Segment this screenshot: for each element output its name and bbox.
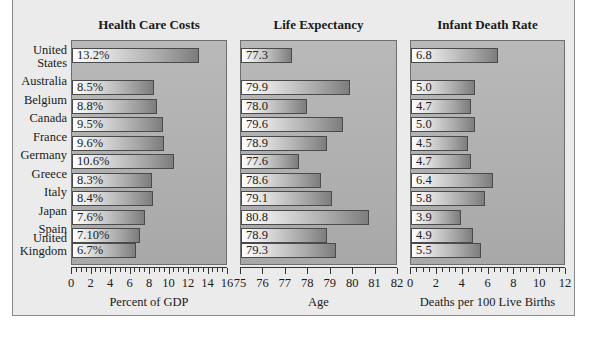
- tick-mark: [159, 268, 160, 272]
- bar[interactable]: 8.8%: [72, 99, 157, 114]
- bar[interactable]: 8.3%: [72, 173, 152, 188]
- bar[interactable]: 6.4: [411, 173, 493, 188]
- bar[interactable]: 79.6: [241, 117, 343, 132]
- category-label-line1: Canada: [30, 112, 67, 125]
- tick-mark: [507, 268, 508, 272]
- bar[interactable]: 9.6%: [72, 136, 164, 151]
- bar[interactable]: 6.7%: [72, 243, 136, 258]
- category-label-line1: Australia: [21, 75, 67, 88]
- bar-value-label: 79.3: [246, 244, 268, 257]
- category-label-line1: Italy: [44, 186, 67, 199]
- tick-mark: [475, 268, 476, 272]
- tick-label: 10: [533, 276, 546, 291]
- infant-death-rate-axis-title: Deaths per 100 Live Births: [420, 295, 555, 310]
- bar[interactable]: 77.3: [241, 48, 292, 63]
- bar[interactable]: 8.4%: [72, 191, 153, 206]
- health-care-costs-axis-title: Percent of GDP: [109, 295, 188, 310]
- bar[interactable]: 6.8: [411, 48, 498, 63]
- bar-value-label: 13.2%: [77, 49, 109, 62]
- bar-value-label: 10.6%: [77, 155, 109, 168]
- category-label-line1: Greece: [32, 168, 67, 181]
- tick-label: 4: [459, 276, 465, 291]
- tick-label: 12: [559, 276, 572, 291]
- bar-value-label: 4.9: [416, 229, 432, 242]
- bar[interactable]: 3.9: [411, 210, 461, 225]
- tick-mark: [416, 268, 417, 272]
- health-care-costs-title: Health Care Costs: [71, 17, 227, 33]
- bar[interactable]: 4.5: [411, 136, 468, 151]
- tick-mark: [115, 268, 116, 272]
- tick-mark: [539, 268, 540, 274]
- bar[interactable]: 4.9: [411, 228, 473, 243]
- tick-mark: [81, 268, 82, 272]
- tick-mark: [488, 268, 489, 274]
- tick-mark: [520, 268, 521, 272]
- tick-label: 2: [87, 276, 93, 291]
- tick-mark: [262, 268, 263, 274]
- bar[interactable]: 4.7: [411, 154, 471, 169]
- tick-mark: [285, 268, 286, 274]
- bar[interactable]: 5.8: [411, 191, 485, 206]
- tick-mark: [95, 268, 96, 272]
- life-expectancy-x-axis: [240, 267, 397, 274]
- tick-mark: [212, 268, 213, 272]
- tick-mark: [307, 268, 308, 274]
- bar-value-label: 5.8: [416, 192, 432, 205]
- tick-label: 79: [323, 276, 336, 291]
- bar-value-label: 3.9: [416, 211, 432, 224]
- tick-label: 77: [279, 276, 292, 291]
- bar[interactable]: 79.3: [241, 243, 336, 258]
- bar[interactable]: 4.7: [411, 99, 471, 114]
- category-label: Italy: [44, 186, 67, 199]
- tick-mark: [565, 268, 566, 274]
- tick-mark: [71, 268, 72, 274]
- tick-mark: [330, 268, 331, 274]
- category-label-line2: States: [33, 57, 67, 70]
- bar[interactable]: 5.0: [411, 117, 475, 132]
- tick-mark: [125, 268, 126, 272]
- tick-mark: [455, 268, 456, 272]
- bar[interactable]: 10.6%: [72, 154, 174, 169]
- tick-mark: [110, 268, 111, 274]
- category-label: Australia: [21, 75, 67, 88]
- health-care-costs-plot-area: 13.2%8.5%8.8%9.5%9.6%10.6%8.3%8.4%7.6%7.…: [71, 40, 227, 265]
- bar[interactable]: 5.5: [411, 243, 481, 258]
- bar[interactable]: 13.2%: [72, 48, 199, 63]
- tick-mark: [449, 268, 450, 272]
- bar[interactable]: 7.6%: [72, 210, 145, 225]
- bar-value-label: 78.6: [246, 174, 268, 187]
- bar-value-label: 5.0: [416, 81, 432, 94]
- tick-mark: [164, 268, 165, 272]
- bar[interactable]: 80.8: [241, 210, 369, 225]
- bar[interactable]: 78.0: [241, 99, 307, 114]
- bar[interactable]: 5.0: [411, 80, 475, 95]
- bar[interactable]: 78.6: [241, 173, 321, 188]
- bar[interactable]: 77.6: [241, 154, 299, 169]
- bar[interactable]: 9.5%: [72, 117, 163, 132]
- tick-mark: [217, 268, 218, 272]
- tick-mark: [533, 268, 534, 272]
- tick-mark: [227, 268, 228, 274]
- tick-mark: [352, 268, 353, 274]
- bar-value-label: 8.4%: [77, 192, 103, 205]
- category-label: Greece: [32, 168, 67, 181]
- tick-mark: [423, 268, 424, 272]
- tick-label: 10: [162, 276, 175, 291]
- bar[interactable]: 78.9: [241, 228, 327, 243]
- tick-mark: [86, 268, 87, 272]
- tick-mark: [500, 268, 501, 272]
- bar-value-label: 8.5%: [77, 81, 103, 94]
- bar[interactable]: 8.5%: [72, 80, 154, 95]
- tick-mark: [154, 268, 155, 272]
- bar[interactable]: 79.9: [241, 80, 350, 95]
- bar[interactable]: 78.9: [241, 136, 327, 151]
- bar[interactable]: 79.1: [241, 191, 332, 206]
- bar-value-label: 7.6%: [77, 211, 103, 224]
- tick-label: 2: [433, 276, 439, 291]
- tick-mark: [134, 268, 135, 272]
- tick-mark: [193, 268, 194, 272]
- bar[interactable]: 7.10%: [72, 228, 140, 243]
- tick-mark: [188, 268, 189, 274]
- bar-value-label: 6.4: [416, 174, 432, 187]
- tick-mark: [105, 268, 106, 272]
